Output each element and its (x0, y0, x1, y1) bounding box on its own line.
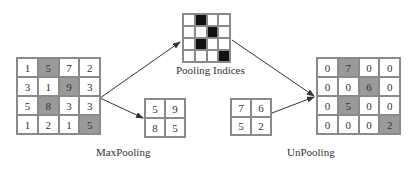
grid-cell: 8 (145, 118, 165, 137)
arrow-to-pooling-indices (100, 42, 180, 98)
grid-cell: 0 (359, 115, 380, 134)
index-cell (195, 26, 207, 38)
grid-cell: 3 (79, 77, 100, 96)
maxpooling-label: MaxPooling (96, 146, 150, 158)
grid-cell: 2 (79, 58, 100, 77)
grid-cell: 1 (17, 115, 38, 134)
index-cell (218, 26, 230, 38)
grid-cell: 9 (165, 99, 185, 118)
grid-cell: 0 (359, 58, 380, 77)
grid-cell: 0 (317, 77, 338, 96)
grid-cell: 5 (338, 96, 359, 115)
grid-cell: 2 (38, 115, 59, 134)
grid-cell: 0 (379, 96, 400, 115)
index-cell (207, 50, 219, 62)
grid-cell: 0 (338, 115, 359, 134)
grid-cell: 0 (379, 77, 400, 96)
index-cell (183, 38, 195, 50)
grid-cell: 8 (38, 96, 59, 115)
index-cell (183, 26, 195, 38)
arrow-to-maxpool-output (100, 98, 143, 118)
index-cell (183, 50, 195, 62)
arrow-unpool-input-to-output (272, 97, 314, 113)
input-feature-map: 1572319358331215 (16, 57, 101, 135)
maxpool-output-grid: 5985 (144, 98, 186, 138)
pooling-indices-grid (182, 13, 231, 63)
grid-cell: 7 (338, 58, 359, 77)
grid-cell: 6 (359, 77, 380, 96)
grid-cell: 5 (79, 115, 100, 134)
index-cell-selected (195, 38, 207, 50)
grid-cell: 0 (338, 77, 359, 96)
index-cell-selected (218, 50, 230, 62)
grid-cell: 2 (251, 117, 271, 135)
pooling-indices-label: Pooling Indices (176, 64, 245, 76)
grid-cell: 0 (317, 58, 338, 77)
grid-cell: 1 (17, 58, 38, 77)
unpool-output-feature-map: 0700006005000002 (316, 57, 401, 135)
index-cell (207, 38, 219, 50)
index-cell-selected (195, 14, 207, 26)
index-cell (195, 50, 207, 62)
grid-cell: 9 (59, 77, 80, 96)
grid-cell: 1 (59, 115, 80, 134)
grid-cell: 5 (145, 99, 165, 118)
grid-cell: 5 (165, 118, 185, 137)
grid-cell: 7 (231, 99, 251, 117)
grid-cell: 0 (359, 96, 380, 115)
grid-cell: 2 (379, 115, 400, 134)
grid-cell: 3 (79, 96, 100, 115)
index-cell (183, 14, 195, 26)
grid-cell: 6 (251, 99, 271, 117)
grid-cell: 0 (379, 58, 400, 77)
grid-cell: 5 (38, 58, 59, 77)
grid-cell: 1 (38, 77, 59, 96)
grid-cell: 0 (317, 96, 338, 115)
index-cell (218, 14, 230, 26)
grid-cell: 3 (59, 96, 80, 115)
index-cell-selected (207, 26, 219, 38)
grid-cell: 0 (317, 115, 338, 134)
grid-cell: 5 (17, 96, 38, 115)
grid-cell: 7 (59, 58, 80, 77)
grid-cell: 5 (231, 117, 251, 135)
grid-cell: 3 (17, 77, 38, 96)
unpooling-label: UnPooling (287, 146, 335, 158)
unpool-input-grid: 7652 (230, 98, 272, 136)
index-cell (218, 38, 230, 50)
index-cell (207, 14, 219, 26)
